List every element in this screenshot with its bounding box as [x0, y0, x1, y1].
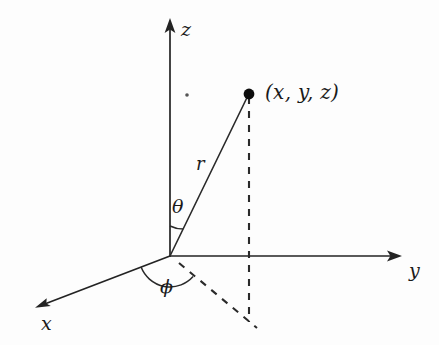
theta-angle-arc: [170, 226, 183, 229]
ink-speck-dot: [185, 93, 189, 97]
radius-ray-line: [170, 96, 248, 257]
phi-angle-label: ϕ: [160, 277, 173, 296]
z-axis-label: z: [181, 20, 191, 39]
spherical-coordinate-figure: z y x r θ ϕ (x, y, z): [0, 0, 439, 345]
z-axis: [165, 18, 176, 256]
x-axis-line: [46, 256, 170, 304]
x-axis-label: x: [41, 314, 52, 333]
coordinate-point-dot: [244, 89, 255, 100]
y-axis-label: y: [409, 261, 420, 280]
y-axis: [170, 251, 402, 262]
radius-label: r: [196, 155, 205, 173]
coordinate-point-label: (x, y, z): [265, 82, 339, 102]
figure-canvas: [0, 0, 439, 345]
x-axis: [35, 256, 170, 308]
xy-projection-dashed-line: [179, 263, 257, 328]
theta-angle-label: θ: [172, 197, 183, 216]
